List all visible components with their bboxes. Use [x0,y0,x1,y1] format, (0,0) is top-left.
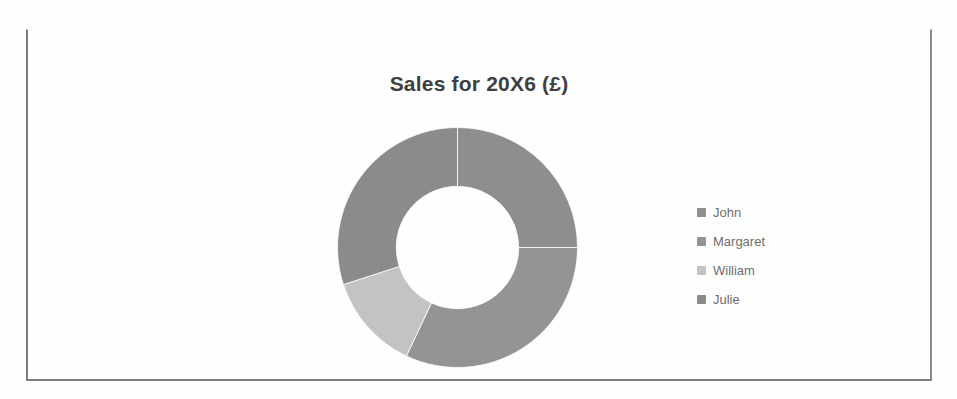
chart-legend: John Margaret William Julie [697,198,847,314]
legend-label: Margaret [713,234,765,249]
chart-title: Sales for 20X6 (£) [28,72,930,96]
legend-label: William [713,263,755,278]
legend-swatch-icon [697,295,706,304]
legend-swatch-icon [697,237,706,246]
legend-item-margaret[interactable]: Margaret [697,227,847,256]
chart-frame: Sales for 20X6 (£) John Margaret William… [26,29,932,381]
doughnut-slice-margaret[interactable] [406,248,577,368]
legend-swatch-icon [697,208,706,217]
doughnut-svg [337,127,578,368]
doughnut-chart [337,127,578,368]
legend-item-william[interactable]: William [697,256,847,285]
legend-label: John [713,205,741,220]
legend-label: Julie [713,292,740,307]
legend-swatch-icon [697,266,706,275]
legend-item-julie[interactable]: Julie [697,285,847,314]
doughnut-slice-julie[interactable] [338,128,458,285]
doughnut-slice-john[interactable] [458,128,578,248]
legend-item-john[interactable]: John [697,198,847,227]
